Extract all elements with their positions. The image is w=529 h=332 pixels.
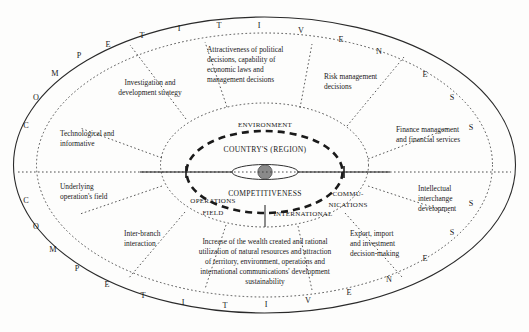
sector-line: Inter-branch bbox=[124, 229, 161, 238]
ring-letter: S bbox=[469, 123, 474, 132]
ring-letter: T bbox=[216, 21, 221, 30]
sector-line: and financial services bbox=[396, 135, 460, 144]
sector-line: Investigation and bbox=[124, 78, 175, 87]
communications-label-line2: NICATIONS bbox=[328, 201, 367, 209]
ring-letter: P bbox=[77, 51, 82, 60]
core-bottom-label: COMPETITIVENESS bbox=[228, 189, 302, 198]
sector-line: development strategy bbox=[118, 88, 182, 97]
sector-line: sustainability bbox=[245, 277, 285, 286]
communications-label-line1: COMMU- bbox=[332, 190, 363, 198]
ring-letter: O bbox=[33, 222, 39, 231]
sector-line: economic laws and bbox=[207, 65, 264, 74]
ring-letter: N bbox=[386, 275, 392, 284]
international-label: INTERNATIONAL bbox=[273, 210, 332, 218]
ring-letter: E bbox=[422, 254, 427, 263]
ring-letter: O bbox=[33, 93, 39, 102]
ring-letter: E bbox=[104, 280, 109, 289]
ring-letter: I bbox=[258, 21, 261, 30]
core-top-label: COUNTRY'S (REGION) bbox=[224, 145, 307, 154]
ring-letter: E bbox=[338, 35, 343, 44]
sector-line: Technological and bbox=[60, 129, 115, 138]
sector-line: interaction bbox=[124, 239, 156, 248]
sector-line: Finance management bbox=[396, 125, 460, 134]
ring-letter: C bbox=[23, 121, 29, 130]
ring-letter: E bbox=[422, 70, 427, 79]
sector-line: utilization of natural resources and att… bbox=[199, 247, 332, 256]
radial-divider-3 bbox=[300, 44, 312, 108]
ring-letter: V bbox=[298, 26, 304, 35]
sector-line: decision-making bbox=[350, 249, 400, 258]
sector-line: management decisions bbox=[207, 75, 274, 84]
sector-label-technological-informative: Technological and informative bbox=[60, 129, 115, 148]
ring-letter: E bbox=[105, 40, 110, 49]
ring-letter: N bbox=[376, 47, 382, 56]
ring-letter: E bbox=[346, 288, 351, 297]
sector-line: operation's field bbox=[60, 192, 108, 201]
sector-line: and investment bbox=[350, 239, 396, 248]
sector-line: of territory, environment, operations an… bbox=[205, 257, 325, 266]
operations-field-label-line2: FIELD bbox=[202, 209, 223, 217]
ring-letter: M bbox=[51, 69, 59, 78]
ring-letter: S bbox=[450, 93, 455, 102]
sector-label-export-import-investment: Export, import and investment decision-m… bbox=[350, 229, 400, 258]
ring-letter: I bbox=[182, 298, 185, 307]
radial-divider-4 bbox=[347, 57, 404, 126]
sector-label-attractiveness-political: Attractiveness of political decisions, c… bbox=[207, 45, 283, 84]
ring-letter: I bbox=[178, 24, 181, 33]
ring-letter: M bbox=[49, 245, 57, 254]
sector-label-underlying-operations-field: Underlying operation's field bbox=[60, 182, 108, 201]
operations-field-label-line1: OPERATIONS bbox=[190, 197, 235, 205]
sector-line: informative bbox=[60, 139, 95, 148]
sector-label-investigation-development: Investigation and development strategy bbox=[118, 78, 182, 97]
sector-line: Intellectual bbox=[418, 184, 451, 193]
sector-label-finance-management: Finance management and financial service… bbox=[396, 125, 460, 144]
sector-label-risk-management: Risk management decisions bbox=[324, 72, 378, 91]
ring-letter: V bbox=[305, 296, 311, 305]
ring-letter: T bbox=[140, 291, 145, 300]
ring-letter: I bbox=[265, 300, 268, 309]
sector-line: Risk management bbox=[324, 72, 378, 81]
ring-letter: S bbox=[450, 228, 455, 237]
sector-line: Underlying bbox=[60, 182, 94, 191]
sector-line: development bbox=[418, 204, 457, 213]
sector-line: Attractiveness of political bbox=[207, 45, 283, 54]
ring-letter: C bbox=[23, 196, 29, 205]
ring-letter: S bbox=[469, 199, 474, 208]
sector-label-inter-branch-interaction: Inter-branch interaction bbox=[124, 229, 161, 248]
sector-line: decisions, capability of bbox=[207, 55, 276, 64]
diagram-page: C O M P E T I T I V E N E S S S S E N E … bbox=[0, 0, 529, 332]
ring-letter: P bbox=[75, 264, 80, 273]
ring-letter: T bbox=[139, 31, 144, 40]
sector-line: Increase of the wealth created and ratio… bbox=[202, 237, 327, 246]
environment-label: ENVIRONMENT bbox=[238, 121, 293, 129]
ring-letter: T bbox=[222, 301, 227, 310]
sector-line: Export, import bbox=[350, 229, 394, 238]
sector-label-wealth-sustainability: Increase of the wealth created and ratio… bbox=[199, 237, 332, 286]
sector-line: decisions bbox=[324, 82, 352, 91]
sector-label-intellectual-interchange: Intellectual interchange development bbox=[418, 184, 457, 213]
sector-line: interchange bbox=[418, 194, 453, 203]
competitiveness-model-diagram: C O M P E T I T I V E N E S S S S E N E … bbox=[0, 0, 529, 332]
sector-line: international communications' developmen… bbox=[200, 267, 330, 276]
